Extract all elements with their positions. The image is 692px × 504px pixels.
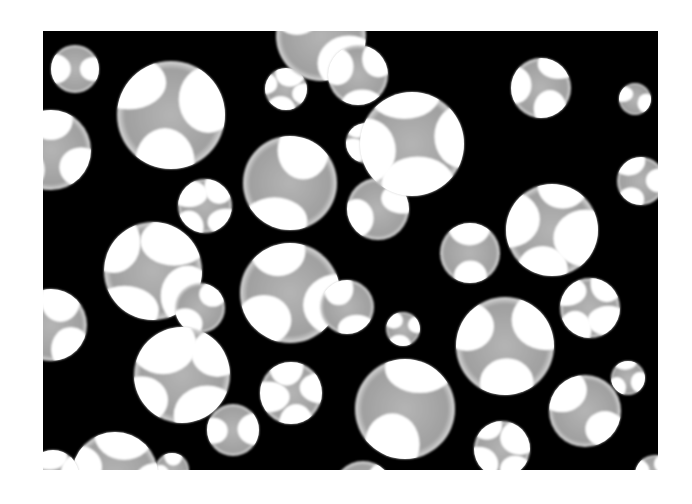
pore bbox=[43, 100, 103, 195]
pore bbox=[355, 343, 455, 470]
pore bbox=[440, 208, 500, 290]
pore bbox=[91, 56, 238, 196]
porous-foam-micrograph bbox=[43, 31, 658, 470]
pore bbox=[246, 347, 343, 442]
pore bbox=[499, 49, 580, 127]
pore bbox=[459, 412, 539, 470]
pore bbox=[242, 121, 337, 244]
pore bbox=[151, 445, 198, 470]
pore bbox=[318, 461, 399, 470]
pore bbox=[612, 146, 658, 211]
pore bbox=[43, 45, 106, 93]
pore bbox=[43, 277, 91, 371]
pore-field bbox=[43, 31, 658, 470]
pore bbox=[622, 454, 658, 470]
pore bbox=[476, 163, 618, 292]
pore bbox=[611, 83, 655, 115]
pore bbox=[545, 265, 630, 348]
pore bbox=[384, 312, 426, 356]
